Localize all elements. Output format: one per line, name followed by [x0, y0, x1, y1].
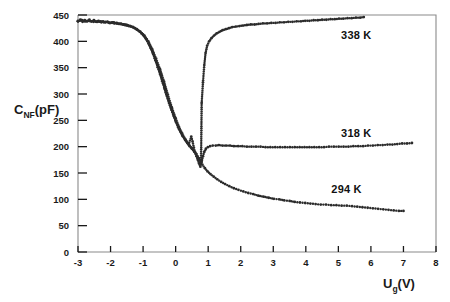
data-point — [255, 145, 258, 148]
data-point — [322, 203, 324, 205]
data-point — [200, 148, 202, 150]
y-tick-label: 200 — [53, 141, 69, 152]
data-point — [204, 56, 206, 58]
data-point — [269, 146, 272, 149]
data-point — [230, 186, 232, 188]
x-tick-label: 1 — [206, 257, 212, 268]
data-point — [145, 36, 147, 38]
data-point — [262, 146, 264, 148]
data-point — [284, 146, 287, 149]
x-tick-label: 4 — [303, 257, 309, 268]
data-point — [377, 207, 380, 210]
data-point — [318, 146, 321, 149]
data-point — [202, 79, 204, 81]
data-point — [379, 144, 381, 146]
data-point — [169, 100, 171, 102]
data-point — [390, 209, 392, 211]
data-point — [314, 203, 317, 206]
data-point — [202, 75, 204, 77]
data-point — [288, 146, 291, 149]
data-point — [397, 210, 400, 213]
data-point — [175, 119, 177, 121]
data-point — [246, 145, 249, 148]
x-tick-label: 2 — [238, 257, 243, 268]
x-axis-title-tail: (V) — [398, 276, 415, 291]
data-point — [337, 145, 340, 148]
data-point — [190, 135, 193, 138]
data-point — [361, 206, 364, 209]
data-point — [191, 138, 193, 140]
y-tick-label: 0 — [64, 247, 69, 258]
data-point — [389, 143, 391, 145]
data-point — [374, 144, 376, 146]
data-point — [327, 204, 329, 206]
data-point — [332, 145, 335, 148]
data-point — [357, 145, 360, 148]
data-point — [167, 95, 169, 97]
data-point — [411, 142, 414, 145]
data-point — [340, 204, 343, 207]
data-point — [309, 202, 312, 205]
data-point — [303, 146, 306, 149]
data-point — [248, 145, 250, 147]
y-axis-tick-labels: 050100150200250300350400450 — [53, 10, 69, 258]
data-point — [353, 205, 355, 207]
data-point — [335, 145, 337, 147]
data-point — [371, 207, 374, 210]
data-point — [241, 145, 244, 148]
y-tick-label: 450 — [53, 10, 69, 21]
data-point — [267, 146, 269, 148]
data-point — [402, 210, 405, 213]
data-point — [201, 96, 203, 98]
data-point — [203, 62, 205, 64]
data-point — [323, 146, 326, 149]
series-annotations: 338 K318 K294 K — [331, 29, 371, 195]
data-point — [301, 146, 303, 148]
data-point — [296, 201, 298, 203]
data-point — [201, 100, 203, 102]
data-point — [403, 142, 405, 144]
data-point — [369, 207, 371, 209]
data-point — [279, 146, 282, 149]
data-point — [376, 144, 379, 147]
x-tick-label: -3 — [74, 257, 82, 268]
data-point — [306, 146, 308, 148]
y-tick-label: 150 — [53, 168, 69, 179]
chart-svg: -3-2-1012345678 050100150200250300350400… — [0, 0, 450, 302]
data-point — [201, 89, 203, 91]
data-point — [392, 209, 395, 212]
data-point — [338, 204, 340, 206]
data-point — [362, 16, 365, 19]
data-point — [237, 188, 240, 191]
data-point — [247, 192, 250, 195]
data-point — [200, 108, 202, 110]
data-point — [311, 146, 313, 148]
data-point — [200, 127, 202, 129]
x-tick-label: 6 — [368, 257, 373, 268]
data-point — [364, 206, 366, 208]
series-label-294-k: 294 K — [331, 183, 361, 195]
data-point — [249, 192, 251, 194]
data-point — [391, 143, 394, 146]
series-318-k — [77, 19, 414, 168]
data-point — [343, 204, 345, 206]
data-point — [291, 146, 293, 148]
data-point — [296, 146, 298, 148]
data-point — [232, 187, 235, 190]
data-point — [235, 188, 237, 190]
data-point — [200, 121, 202, 123]
data-point — [272, 146, 274, 148]
y-tick-label: 350 — [53, 62, 69, 73]
data-point — [276, 146, 278, 148]
data-point — [313, 146, 316, 149]
data-point — [264, 146, 267, 149]
series-338-k — [77, 16, 366, 166]
y-tick-label: 400 — [53, 36, 69, 47]
data-point — [274, 146, 277, 149]
data-point — [200, 106, 202, 108]
data-point — [387, 208, 390, 211]
data-point — [345, 204, 348, 207]
data-point — [245, 191, 247, 193]
y-axis-title-subscript: NF — [23, 110, 34, 120]
data-point — [273, 197, 276, 200]
